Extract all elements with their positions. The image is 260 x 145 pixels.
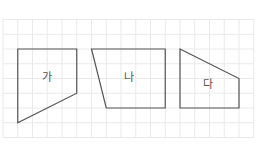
shape-na-label: 나 [124,71,134,84]
shape-ga-label: 가 [42,71,52,84]
shapes-group: 가 나 다 [18,49,239,123]
grid-diagram: 가 나 다 [0,0,260,145]
shape-da-label: 다 [203,78,213,91]
